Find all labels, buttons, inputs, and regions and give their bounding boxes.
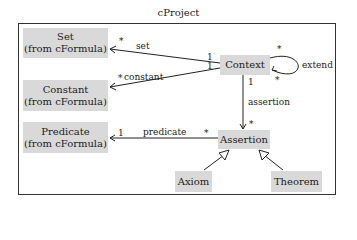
class-constant[interactable]: Constant (from cFormula)	[23, 80, 108, 111]
mult-predicate-source: *	[204, 128, 209, 138]
generalization-axiom-line	[204, 155, 224, 170]
generalization-theorem-triangle-icon	[259, 150, 269, 160]
class-context-name: Context	[225, 59, 265, 71]
mult-assertion-target: *	[249, 119, 254, 129]
label-assertion: assertion	[248, 97, 290, 107]
label-set: set	[136, 41, 150, 51]
mult-constant-target: *	[118, 73, 123, 83]
mult-assertion-source: 1	[248, 77, 254, 87]
association-extend-loop	[270, 56, 298, 74]
mult-constant-source: 1	[207, 61, 213, 71]
arrowhead-extend-icon	[272, 66, 277, 71]
class-theorem-name: Theorem	[274, 176, 319, 188]
mult-extend-target: *	[275, 75, 280, 85]
class-set[interactable]: Set (from cFormula)	[23, 28, 108, 58]
class-predicate-name: Predicate	[41, 126, 90, 138]
mult-extend-source: *	[277, 44, 282, 54]
class-set-package: (from cFormula)	[24, 43, 107, 55]
association-set-line	[110, 49, 220, 63]
class-assertion[interactable]: Assertion	[218, 130, 270, 149]
class-predicate[interactable]: Predicate (from cFormula)	[23, 122, 108, 153]
label-extend: extend	[302, 60, 333, 70]
generalization-axiom-triangle-icon	[219, 150, 229, 160]
class-assertion-name: Assertion	[220, 134, 268, 146]
mult-predicate-target: 1	[118, 128, 124, 138]
class-context[interactable]: Context	[220, 55, 270, 75]
class-axiom-name: Axiom	[178, 176, 210, 188]
label-predicate: predicate	[143, 127, 186, 137]
class-set-name: Set	[57, 31, 74, 43]
class-theorem[interactable]: Theorem	[271, 171, 322, 192]
class-constant-package: (from cFormula)	[24, 96, 107, 108]
label-constant: constant	[124, 72, 163, 82]
generalization-theorem-line	[264, 155, 283, 170]
class-axiom[interactable]: Axiom	[175, 171, 212, 192]
class-constant-name: Constant	[43, 84, 89, 96]
mult-set-target: *	[119, 36, 124, 46]
class-predicate-package: (from cFormula)	[24, 138, 107, 150]
